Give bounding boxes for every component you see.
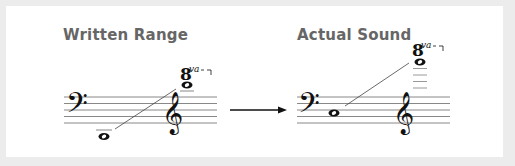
ottava-mark-actual: 8 va (412, 40, 443, 60)
bass-clef-icon: 𝄢 (298, 86, 320, 126)
svg-text:𝄢: 𝄢 (66, 86, 88, 126)
svg-text:𝄞: 𝄞 (393, 92, 414, 135)
treble-clef-icon: 𝄞 (393, 92, 414, 135)
treble-clef-icon: 𝄞 (162, 92, 183, 135)
notation-diagram: 𝄢 𝄞 8 va 𝄢 𝄞 (0, 0, 515, 166)
svg-text:𝄢: 𝄢 (298, 86, 320, 126)
low-whole-note-actual (329, 110, 340, 117)
right-arrow-icon (230, 107, 287, 114)
svg-text:va: va (189, 64, 199, 74)
svg-text:va: va (421, 40, 431, 50)
low-whole-note-written (96, 130, 112, 140)
high-whole-note-actual (413, 59, 427, 89)
ottava-mark-written: 8 va (180, 64, 211, 84)
svg-text:𝄞: 𝄞 (162, 92, 183, 135)
bass-clef-icon: 𝄢 (66, 86, 88, 126)
